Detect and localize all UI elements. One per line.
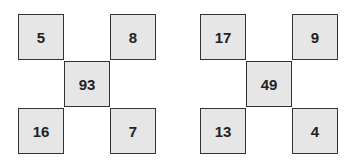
cell-top-right: 9 <box>292 14 338 60</box>
cell-bottom-left: 16 <box>18 108 64 154</box>
cell-top-left: 17 <box>200 14 246 60</box>
cell-top-left: 5 <box>18 14 64 60</box>
cell-bottom-right: 4 <box>292 108 338 154</box>
puzzle-grid-1: 5 8 93 16 7 <box>18 14 158 155</box>
puzzle-grid-2: 17 9 49 13 4 <box>200 14 340 155</box>
cell-bottom-right: 7 <box>110 108 156 154</box>
cell-top-right: 8 <box>110 14 156 60</box>
cell-bottom-left: 13 <box>200 108 246 154</box>
cell-center: 49 <box>246 61 292 107</box>
cell-center: 93 <box>64 61 110 107</box>
